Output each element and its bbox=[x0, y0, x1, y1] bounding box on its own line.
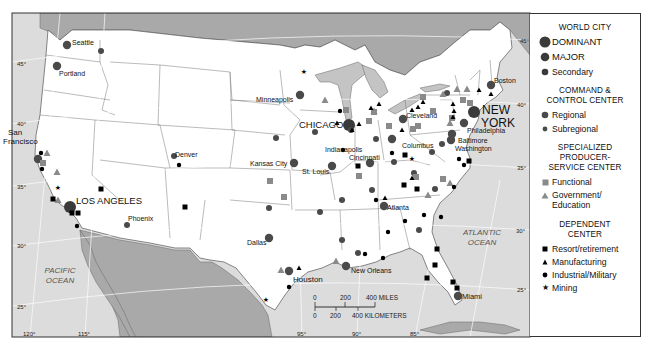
industrial-marker-icon bbox=[363, 252, 367, 256]
industrial-marker-icon bbox=[39, 151, 43, 155]
regional-circle-icon bbox=[538, 110, 552, 120]
city-label: Seattle bbox=[72, 39, 94, 46]
legend-world-city-title: WORLD CITY bbox=[530, 23, 640, 33]
city-label: LOS ANGELES bbox=[76, 195, 142, 206]
legend-command-title-2: CONTROL CENTER bbox=[530, 96, 640, 106]
industrial-marker-icon bbox=[457, 157, 461, 161]
legend-major-label: MAJOR bbox=[552, 52, 585, 62]
government-triangle-icon bbox=[538, 190, 552, 200]
ocean-label: OCEAN bbox=[468, 238, 497, 247]
regional-center-marker-icon bbox=[266, 205, 272, 211]
major-city-marker-icon bbox=[285, 267, 293, 275]
city-label: Cleveland bbox=[406, 112, 437, 119]
industrial-dot-icon bbox=[538, 270, 552, 280]
legend-secondary-label: Secondary bbox=[552, 67, 593, 77]
industrial-marker-icon bbox=[75, 224, 79, 228]
regional-center-marker-icon bbox=[339, 237, 345, 243]
functional-square-icon bbox=[538, 177, 552, 187]
latitude-label: 35° bbox=[517, 165, 527, 171]
resort-marker-icon bbox=[467, 159, 472, 164]
industrial-marker-icon bbox=[422, 213, 426, 217]
industrial-marker-icon bbox=[381, 256, 385, 260]
industrial-marker-icon bbox=[462, 163, 466, 167]
mining-marker-icon: ★ bbox=[55, 184, 61, 192]
resort-marker-icon bbox=[425, 276, 430, 281]
major-city-marker-icon bbox=[447, 136, 455, 144]
industrial-marker-icon bbox=[40, 167, 44, 171]
resort-marker-icon bbox=[356, 164, 361, 169]
longitude-label: 120° bbox=[23, 331, 36, 337]
scale-miles-200: 200 bbox=[340, 294, 351, 301]
industrial-marker-icon bbox=[439, 215, 443, 219]
city-label: Minneapolis bbox=[256, 96, 294, 104]
city-label: Denver bbox=[175, 151, 198, 158]
resort-marker-icon bbox=[415, 187, 420, 192]
legend-industrial-label: Industrial/Military bbox=[552, 270, 616, 280]
legend-education-label: Education bbox=[552, 200, 590, 210]
ocean-label: OCEAN bbox=[46, 276, 75, 285]
scale-km-0: 0 bbox=[313, 312, 317, 319]
scale-km-400: 400 KILOMETERS bbox=[352, 312, 407, 319]
resort-marker-icon bbox=[183, 205, 188, 210]
legend-resort-label: Resort/retirement bbox=[552, 244, 618, 254]
regional-center-marker-icon bbox=[432, 186, 438, 192]
functional-marker-icon bbox=[356, 173, 362, 179]
major-city-marker-icon bbox=[296, 91, 304, 99]
mining-marker-icon: ★ bbox=[301, 68, 307, 76]
latitude-label: 35° bbox=[17, 184, 27, 190]
resort-marker-icon bbox=[451, 280, 456, 285]
scale-miles-0: 0 bbox=[313, 294, 317, 301]
longitude-label: 95° bbox=[297, 331, 307, 337]
functional-marker-icon bbox=[386, 123, 392, 129]
functional-marker-icon bbox=[420, 94, 426, 100]
regional-center-marker-icon bbox=[355, 250, 361, 256]
regional-center-marker-icon bbox=[98, 48, 104, 54]
legend-dominant-label: DOMINANT bbox=[552, 37, 602, 47]
city-label: Indianapolis bbox=[325, 146, 363, 154]
legend-dependent-title-1: DEPENDENT bbox=[530, 220, 640, 230]
longitude-label: 90° bbox=[352, 331, 362, 337]
regional-center-marker-icon bbox=[391, 159, 397, 165]
functional-marker-icon bbox=[467, 100, 473, 106]
regional-center-marker-icon bbox=[369, 187, 375, 193]
legend-specialized-title-1: SPECIALIZED bbox=[530, 143, 640, 153]
city-label: Baltimore bbox=[458, 137, 488, 144]
latitude-label: 45° bbox=[17, 61, 27, 67]
longitude-label: 115° bbox=[78, 331, 91, 337]
major-city-marker-icon bbox=[454, 292, 462, 300]
resort-marker-icon bbox=[435, 247, 440, 252]
scale-km-200: 200 bbox=[330, 312, 341, 319]
regional-center-marker-icon bbox=[339, 197, 345, 203]
legend-command-title-1: COMMAND & bbox=[530, 86, 640, 96]
city-label: San bbox=[8, 128, 22, 137]
longitude-label: 85° bbox=[410, 331, 420, 337]
legend-education: Education bbox=[538, 200, 640, 210]
latitude-label: 40° bbox=[17, 121, 27, 127]
regional-center-marker-icon bbox=[373, 136, 379, 142]
functional-marker-icon bbox=[460, 97, 466, 103]
legend-functional-label: Functional bbox=[552, 177, 592, 187]
major-city-marker-icon bbox=[53, 62, 61, 70]
resort-marker-icon bbox=[403, 153, 408, 158]
manufacturing-triangle-icon bbox=[538, 257, 552, 267]
legend-regional: Regional bbox=[538, 110, 640, 120]
city-label: Phoenix bbox=[128, 215, 154, 222]
resort-marker-icon bbox=[455, 286, 460, 291]
major-city-marker-icon bbox=[342, 262, 350, 270]
functional-marker-icon bbox=[40, 160, 46, 166]
city-label: Washington bbox=[455, 145, 492, 153]
legend-major: MAJOR bbox=[538, 52, 640, 62]
functional-marker-icon bbox=[366, 118, 372, 124]
legend-manufacturing-label: Manufacturing bbox=[552, 257, 606, 267]
resort-marker-icon bbox=[70, 211, 75, 216]
city-label: Kansas City bbox=[250, 160, 288, 168]
scale-miles-400: 400 MILES bbox=[366, 294, 399, 301]
ocean-label: PACIFIC bbox=[45, 266, 76, 275]
legend-functional: Functional bbox=[538, 177, 640, 187]
regional-center-marker-icon bbox=[416, 227, 422, 233]
city-label: Miami bbox=[462, 292, 482, 301]
city-label: NEW bbox=[482, 103, 511, 117]
city-label: Francisco bbox=[3, 137, 38, 146]
major-city-marker-icon bbox=[388, 135, 396, 143]
legend-mining: ★ Mining bbox=[538, 283, 640, 293]
